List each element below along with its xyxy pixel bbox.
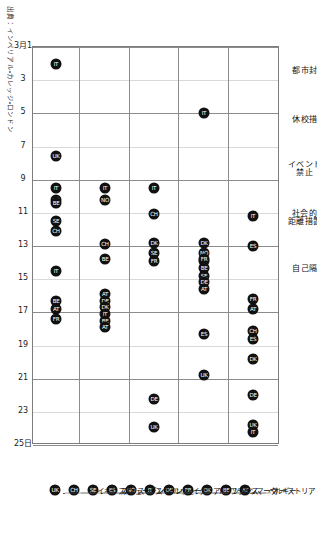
gridline-date (33, 346, 278, 347)
gridline-date (33, 47, 278, 48)
data-point-marker: ES (248, 241, 259, 252)
data-point-marker: IT (100, 182, 111, 193)
date-tick-label: 17 (18, 307, 28, 315)
data-point-marker: FR (149, 255, 160, 266)
gridline-date (33, 147, 278, 148)
date-tick-label: 3 (20, 75, 25, 83)
date-tick-label: 13 (18, 241, 28, 249)
data-point-marker: IT (248, 426, 259, 437)
gridline-date (33, 180, 278, 181)
data-point-marker: IT (50, 265, 61, 276)
gridline-date (33, 412, 278, 413)
legend: ATオーストリアBEベルギーDKデンマークFRフランスDEドイツITイタリアNO… (78, 452, 287, 528)
date-tick-label: 21 (18, 374, 28, 382)
legend-row: UKイギリス (50, 481, 126, 500)
data-point-marker: AT (198, 284, 209, 295)
data-point-marker: FR (50, 313, 61, 324)
data-point-marker: IT (248, 211, 259, 222)
data-point-marker: DE (149, 393, 160, 404)
data-point-marker: BE (50, 197, 61, 208)
data-point-marker: DK (248, 353, 259, 364)
legend-label: スイス (123, 485, 145, 496)
category-divider (129, 47, 130, 443)
legend-label: ドイツ (218, 485, 240, 496)
chart-stage: 出典：インペリアル・カレッジ・ロンドン 都市封鎖休校措置イベント 禁止社会的 距… (0, 0, 317, 533)
category-label: 都市封鎖 (284, 67, 317, 75)
gridline-date (33, 379, 278, 380)
data-point-marker: CH (149, 209, 160, 220)
gridline-date (33, 279, 278, 280)
category-divider (178, 47, 179, 443)
source-note: 出典：インペリアル・カレッジ・ロンドン (6, 6, 16, 133)
category-label: イベント 禁止 (280, 161, 317, 178)
data-point-marker: BE (100, 254, 111, 265)
date-tick-label: 7 (20, 142, 25, 150)
data-point-marker: UK (149, 421, 160, 432)
data-point-marker: UK (50, 151, 61, 162)
gridline-date (33, 312, 278, 313)
data-point-marker: ES (248, 333, 259, 344)
category-label: 社会的 距離措置 (280, 210, 317, 227)
date-tick-label: 25日 (14, 440, 32, 448)
legend-leader-dots (63, 485, 95, 493)
date-tick-label: 9 (20, 175, 25, 183)
data-point-marker: DE (248, 390, 259, 401)
data-point-marker: AT (100, 322, 111, 333)
date-tick-label: 5 (20, 108, 25, 116)
data-point-marker: IT (149, 182, 160, 193)
legend-marker-icon: UK (50, 485, 61, 496)
data-point-marker: IT (50, 182, 61, 193)
gridline-date (33, 80, 278, 81)
gridline-date (33, 445, 278, 446)
category-label: 休校措置 (284, 116, 317, 124)
data-point-marker: IT (198, 108, 209, 119)
date-tick-label: 19 (18, 341, 28, 349)
date-tick-label: 3月1 (14, 42, 32, 50)
data-point-marker: NO (100, 194, 111, 205)
date-tick-label: 15 (18, 274, 28, 282)
data-point-marker: ES (198, 328, 209, 339)
data-point-marker: CH (50, 226, 61, 237)
data-point-marker: IT (50, 58, 61, 69)
category-divider (228, 47, 229, 443)
date-tick-label: 11 (18, 208, 28, 216)
date-tick-label: 23 (18, 407, 28, 415)
legend-label: イギリス (97, 485, 126, 496)
data-point-marker: CH (100, 239, 111, 250)
category-label: 自己隔離 (284, 264, 317, 272)
gridline-date (33, 113, 278, 114)
plot-area: ITITUKITITNOITESBEITCHSECHESDKNOCHDKSECH… (32, 46, 279, 444)
category-divider (79, 47, 80, 443)
